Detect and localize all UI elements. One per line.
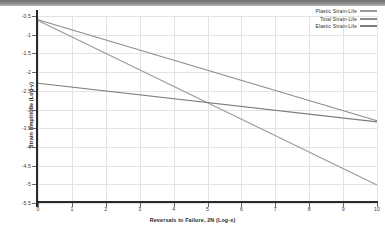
y-tick-mark: [32, 110, 36, 111]
y-tick-mark: [32, 16, 36, 17]
x-tick-label: 9: [342, 206, 345, 212]
y-axis-line: [36, 10, 38, 207]
x-tick-label: 2: [104, 206, 107, 212]
legend-line-swatch: [360, 10, 377, 12]
x-axis-title: Reversals to Failure, 2N (Log-x): [0, 217, 385, 223]
y-tick-label: -2.5: [22, 88, 31, 94]
gridline-vertical: [377, 16, 378, 203]
y-tick-label: -1.5: [22, 50, 31, 56]
y-tick-mark: [32, 128, 36, 129]
x-tick-label: 4: [172, 206, 175, 212]
y-tick-label: -1: [26, 32, 31, 38]
y-tick-mark: [32, 91, 36, 92]
legend-item-total-strain-life[interactable]: Total Strain-Life: [315, 16, 377, 23]
series-lines: [38, 16, 377, 203]
legend-label: Plastic Strain-Life: [315, 8, 357, 14]
y-axis-title-container: Strain Amplitude (Log-y): [0, 0, 12, 230]
x-tick-label: 8: [308, 206, 311, 212]
y-tick-mark: [32, 184, 36, 185]
y-tick-mark: [32, 72, 36, 73]
window-title-bar: [0, 0, 385, 6]
series-line: [38, 83, 377, 122]
y-tick-label: -4.5: [22, 163, 31, 169]
x-tick-label: 7: [274, 206, 277, 212]
chart-legend: Plastic Strain-Life Total Strain-Life El…: [313, 7, 379, 31]
legend-label: Total Strain-Life: [320, 16, 357, 22]
y-tick-label: -2: [26, 69, 31, 75]
legend-line-swatch: [360, 25, 377, 27]
chart-window: Strain Amplitude (Log-y) -0.5-1-1.5-2-2.…: [0, 0, 385, 230]
y-tick-mark: [32, 203, 36, 204]
legend-label: Elastic Strain-Life: [315, 23, 357, 29]
legend-item-plastic-strain-life[interactable]: Plastic Strain-Life: [315, 8, 377, 15]
y-tick-label: -4: [26, 144, 31, 150]
x-tick-label: 0: [37, 206, 40, 212]
x-tick-label: 3: [138, 206, 141, 212]
series-line: [38, 20, 377, 121]
y-tick-mark: [32, 35, 36, 36]
y-tick-label: -5: [26, 181, 31, 187]
y-tick-label: -3.5: [22, 125, 31, 131]
y-tick-label: -5.5: [22, 200, 31, 206]
x-tick-label: 10: [374, 206, 380, 212]
y-tick-mark: [32, 147, 36, 148]
plot-area: [38, 16, 377, 203]
y-tick-mark: [32, 166, 36, 167]
x-tick-label: 5: [206, 206, 209, 212]
y-tick-label: -3: [26, 107, 31, 113]
x-tick-label: 1: [70, 206, 73, 212]
y-tick-label: -0.5: [22, 13, 31, 19]
legend-line-swatch: [360, 18, 377, 20]
y-tick-mark: [32, 53, 36, 54]
legend-item-elastic-strain-life[interactable]: Elastic Strain-Life: [315, 23, 377, 30]
x-tick-label: 6: [240, 206, 243, 212]
